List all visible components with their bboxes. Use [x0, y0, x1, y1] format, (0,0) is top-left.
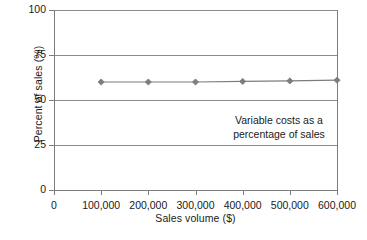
plot-area: 0255075100 0100,000200,000300,000400,000… — [54, 10, 337, 190]
y-tick-label-100: 100 — [28, 3, 46, 15]
y-tick-label-75: 75 — [34, 48, 46, 60]
data-point-marker — [287, 78, 293, 84]
y-tick-label-25: 25 — [34, 138, 46, 150]
x-tick-label-300000: 300,000 — [177, 199, 215, 211]
data-point-marker — [145, 79, 151, 85]
annotation-line-2: percentage of sales — [179, 127, 367, 141]
x-axis-title: Sales volume ($) — [54, 212, 337, 224]
y-tick-label-0: 0 — [40, 183, 46, 195]
series-line-0 — [101, 80, 337, 82]
x-tick-label-400000: 400,000 — [224, 199, 262, 211]
x-tick-label-200000: 200,000 — [129, 199, 167, 211]
x-tick-label-600000: 600,000 — [318, 199, 356, 211]
data-point-marker — [334, 77, 340, 83]
series-annotation: Variable costs as a percentage of sales — [179, 113, 367, 141]
chart-figure: Percent of sales (%) Sales volume ($) 02… — [0, 0, 367, 240]
x-tick-label-0: 0 — [51, 199, 57, 211]
data-point-marker — [240, 78, 246, 84]
annotation-line-1: Variable costs as a — [179, 113, 367, 127]
x-tick-label-500000: 500,000 — [271, 199, 309, 211]
data-point-marker — [192, 79, 198, 85]
plot-right-border — [337, 10, 338, 191]
y-tick-label-50: 50 — [34, 93, 46, 105]
series-group — [54, 10, 337, 191]
data-point-marker — [98, 79, 104, 85]
x-tick-label-100000: 100,000 — [82, 199, 120, 211]
